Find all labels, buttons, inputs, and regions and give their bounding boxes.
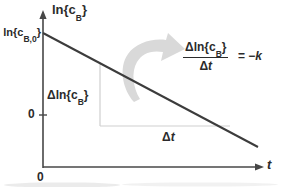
y-axis-arrowhead-icon — [39, 10, 46, 19]
run-label-var: t — [171, 130, 175, 144]
y-intercept-sub: B,0 — [23, 34, 36, 44]
rhs-equals-sign: = − — [238, 49, 255, 63]
scan-smudge — [122, 182, 278, 186]
y-intercept-label: ln{cB,0} — [2, 27, 41, 39]
y-axis-title-sub: B — [76, 13, 82, 23]
y-axis-title: ln{cB} — [52, 3, 87, 17]
x-axis-title: t — [267, 158, 271, 172]
scan-smudge — [4, 182, 120, 187]
x-axis-arrowhead-icon — [255, 163, 264, 170]
run-label: Δt — [162, 131, 175, 144]
rhs-variable: k — [255, 49, 262, 63]
y-axis-title-pre: ln{c — [52, 2, 76, 17]
numerator-pre: Δln{c — [185, 40, 216, 54]
denominator-var: t — [208, 59, 212, 73]
numerator-post: } — [222, 40, 227, 54]
y-intercept-pre: ln{c — [3, 26, 23, 38]
rise-label: Δln{cB} — [47, 89, 88, 102]
y-axis-zero-label: 0 — [28, 108, 35, 121]
denominator-delta: Δ — [199, 59, 208, 73]
y-axis-title-post: } — [82, 2, 87, 17]
slope-equation: Δln{cB} Δt — [183, 41, 228, 72]
slope-equation-numerator: Δln{cB} — [183, 41, 228, 57]
plot-graphics — [0, 0, 282, 187]
rise-label-post: } — [84, 88, 89, 102]
rise-label-pre: Δln{c — [47, 88, 78, 102]
slope-equation-fraction: Δln{cB} Δt — [183, 41, 228, 72]
run-label-delta: Δ — [162, 130, 171, 144]
numerator-sub: B — [216, 49, 222, 59]
figure-canvas: ln{cB} ln{cB,0} 0 0 Δln{cB} Δt Δln{cB} Δ… — [0, 0, 282, 187]
y-intercept-post: } — [37, 26, 41, 38]
slope-equation-rhs: = −k — [238, 49, 262, 63]
x-axis-origin-label: 0 — [37, 171, 44, 184]
rise-label-sub: B — [78, 97, 84, 107]
